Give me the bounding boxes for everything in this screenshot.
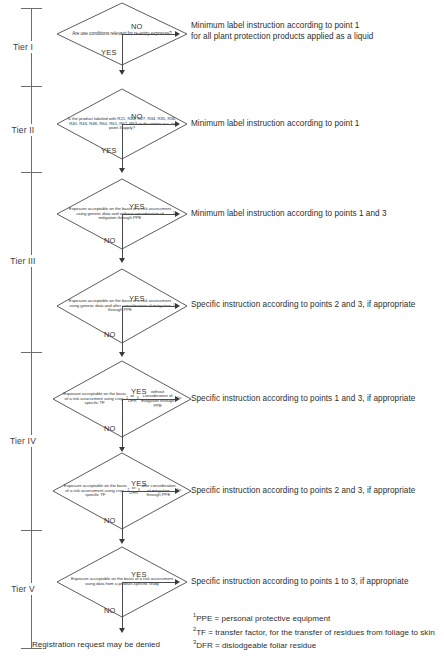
edge-d7-no	[122, 582, 123, 630]
edge-d4-no	[122, 306, 123, 354]
arrowhead-d6-no	[119, 539, 125, 544]
tier-rail: Tier I Tier II Tier III Tier IV Tier V	[0, 0, 46, 660]
footnote-text-1: PPE = personal protective equipment	[196, 614, 330, 623]
branch-label-d3-no: NO	[104, 236, 116, 245]
edge-d6-no	[122, 491, 123, 541]
outcome-text-5: Specific instruction according to points…	[191, 393, 441, 404]
branch-label-d6-yes: YES	[131, 479, 147, 488]
footnote-block: 1PPE = personal protective equipment 2TF…	[193, 611, 435, 652]
edge-d5-yes	[122, 399, 175, 400]
footnote-text-2: TF = transfer factor, for the transfer o…	[196, 627, 435, 636]
terminal-node-denied: Registration request may be denied	[32, 640, 160, 649]
flowchart-canvas: Tier I Tier II Tier III Tier IV Tier V A…	[0, 0, 444, 660]
branch-label-d4-no: NO	[104, 330, 116, 339]
tier-label-1: Tier I	[0, 41, 46, 53]
arrowhead-d4-yes	[175, 303, 180, 309]
footnote-2: 2TF = transfer factor, for the transfer …	[193, 625, 435, 639]
outcome-text-3: Minimum label instruction according to p…	[191, 208, 441, 219]
arrowhead-d7-yes	[175, 579, 180, 585]
footnote-1: 1PPE = personal protective equipment	[193, 611, 435, 625]
edge-d3-yes	[122, 214, 175, 215]
arrowhead-d7-no	[119, 628, 125, 633]
edge-d1-no	[122, 34, 175, 35]
tier-label-5: Tier V	[0, 583, 46, 595]
edge-d6-yes	[122, 491, 175, 492]
branch-label-d6-no: NO	[104, 516, 116, 525]
edge-d3-no	[122, 214, 123, 260]
edge-d2-yes	[122, 124, 123, 170]
arrowhead-d3-yes	[175, 211, 180, 217]
arrowhead-d1-no	[175, 31, 180, 37]
branch-label-d5-yes: YES	[131, 387, 147, 396]
arrowhead-d3-no	[119, 258, 125, 263]
arrowhead-d1-yes	[119, 70, 125, 75]
outcome-text-1: Minimum label instruction according to p…	[191, 20, 441, 42]
arrowhead-d5-yes	[175, 396, 180, 402]
tier-label-4: Tier IV	[0, 435, 46, 447]
outcome-text-6: Specific instruction according to points…	[191, 485, 441, 496]
arrowhead-d6-yes	[175, 488, 180, 494]
arrowhead-d2-no	[175, 121, 180, 127]
arrowhead-d2-yes	[119, 168, 125, 173]
branch-label-d7-yes: YES	[131, 570, 147, 579]
footnote-text-3: DFR = dislodgeable foliar residue	[196, 641, 316, 650]
branch-label-d1-no: NO	[131, 22, 143, 31]
branch-label-d4-yes: YES	[129, 294, 145, 303]
arrowhead-d4-no	[119, 352, 125, 357]
outcome-text-2: Minimum label instruction according to p…	[191, 118, 441, 129]
branch-label-d7-no: NO	[104, 606, 116, 615]
branch-label-d5-no: NO	[104, 424, 116, 433]
branch-label-d1-yes: YES	[101, 48, 117, 57]
edge-d2-no	[122, 124, 175, 125]
edge-d1-yes	[122, 34, 123, 72]
branch-label-d2-no: NO	[131, 112, 143, 121]
edge-d5-no	[122, 399, 123, 449]
edge-d4-yes	[122, 306, 175, 307]
tier-label-2: Tier II	[0, 124, 46, 136]
footnote-3: 3DFR = dislodgeable foliar residue	[193, 638, 435, 652]
branch-label-d2-yes: YES	[101, 146, 117, 155]
outcome-text-4: Specific instruction according to points…	[191, 299, 441, 310]
outcome-text-7: Specific instruction according to points…	[191, 576, 441, 587]
tier-label-3: Tier III	[0, 255, 46, 267]
edge-d7-yes	[122, 582, 175, 583]
branch-label-d3-yes: YES	[129, 202, 145, 211]
